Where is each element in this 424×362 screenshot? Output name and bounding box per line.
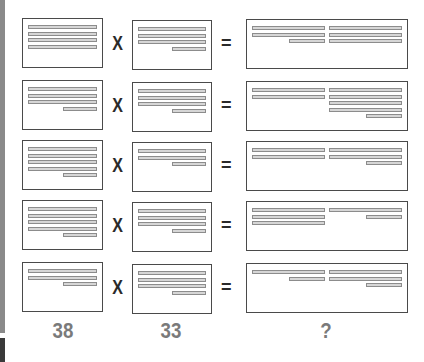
text-line-placeholder <box>252 26 325 30</box>
text-line-placeholder <box>138 278 206 282</box>
text-line-placeholder <box>28 160 97 164</box>
text-line-placeholder <box>329 26 402 30</box>
text-line-placeholder <box>28 45 97 49</box>
text-line-placeholder <box>28 269 97 273</box>
left-edge-block <box>0 338 5 362</box>
text-line-placeholder <box>329 95 402 99</box>
text-line-placeholder <box>28 214 97 218</box>
text-line-placeholder <box>329 88 402 92</box>
text-line-placeholder <box>329 277 402 281</box>
text-line-placeholder <box>252 95 325 99</box>
text-line-placeholder <box>329 208 402 212</box>
multiply-sign: X <box>112 94 123 117</box>
text-line-placeholder <box>329 33 402 37</box>
text-line-placeholder <box>28 220 97 224</box>
text-line-placeholder <box>252 270 325 274</box>
operand-a-box <box>22 18 103 68</box>
text-line-placeholder <box>28 276 97 280</box>
multiply-sign: X <box>112 32 123 55</box>
text-line-placeholder <box>172 162 206 166</box>
equals-sign: = <box>221 95 232 116</box>
left-edge-strip <box>0 0 5 333</box>
result-box <box>246 263 408 313</box>
text-line-placeholder <box>138 216 206 220</box>
text-line-placeholder <box>138 96 206 100</box>
text-line-placeholder <box>28 25 97 29</box>
text-line-placeholder <box>289 39 326 43</box>
text-line-placeholder <box>366 283 403 287</box>
text-line-placeholder <box>172 291 206 295</box>
text-line-placeholder <box>289 277 326 281</box>
text-line-placeholder <box>329 270 402 274</box>
text-line-placeholder <box>172 47 206 51</box>
result-box <box>246 141 408 191</box>
text-line-placeholder <box>329 101 402 105</box>
text-line-placeholder <box>138 271 206 275</box>
equals-sign: = <box>221 33 232 54</box>
label-col3: ? <box>313 318 339 344</box>
text-line-placeholder <box>366 215 403 219</box>
text-line-placeholder <box>329 148 402 152</box>
text-line-placeholder <box>329 39 402 43</box>
text-line-placeholder <box>252 208 325 212</box>
label-col1: 38 <box>50 318 76 344</box>
text-line-placeholder <box>138 40 206 44</box>
result-box <box>246 19 408 69</box>
text-line-placeholder <box>366 161 403 165</box>
text-line-placeholder <box>252 155 325 159</box>
text-line-placeholder <box>28 32 97 36</box>
text-line-placeholder <box>63 107 98 111</box>
text-line-placeholder <box>366 114 403 118</box>
text-line-placeholder <box>63 282 98 286</box>
text-line-placeholder <box>28 154 97 158</box>
text-line-placeholder <box>63 233 98 237</box>
text-line-placeholder <box>252 215 325 219</box>
operand-a-box <box>22 140 103 190</box>
operand-a-box <box>22 80 103 130</box>
text-line-placeholder <box>138 149 206 153</box>
equals-sign: = <box>221 215 232 236</box>
equals-sign: = <box>221 155 232 176</box>
text-line-placeholder <box>138 222 206 226</box>
text-line-placeholder <box>63 173 98 177</box>
label-col2: 33 <box>158 318 184 344</box>
text-line-placeholder <box>138 89 206 93</box>
text-line-placeholder <box>28 87 97 91</box>
text-line-placeholder <box>252 221 325 225</box>
text-line-placeholder <box>138 27 206 31</box>
text-line-placeholder <box>172 109 206 113</box>
operand-b-box <box>132 20 212 70</box>
text-line-placeholder <box>28 94 97 98</box>
text-line-placeholder <box>138 102 206 106</box>
text-line-placeholder <box>172 229 206 233</box>
multiply-sign: X <box>112 154 123 177</box>
operand-a-box <box>22 262 103 312</box>
text-line-placeholder <box>28 207 97 211</box>
text-line-placeholder <box>28 38 97 42</box>
operand-b-box <box>132 82 212 132</box>
text-line-placeholder <box>138 34 206 38</box>
text-line-placeholder <box>28 147 97 151</box>
text-line-placeholder <box>28 167 97 171</box>
equals-sign: = <box>221 277 232 298</box>
text-line-placeholder <box>329 155 402 159</box>
text-line-placeholder <box>252 88 325 92</box>
result-box <box>246 81 408 131</box>
text-line-placeholder <box>329 108 402 112</box>
text-line-placeholder <box>28 100 97 104</box>
text-line-placeholder <box>28 227 97 231</box>
multiply-sign: X <box>112 214 123 237</box>
text-line-placeholder <box>138 209 206 213</box>
text-line-placeholder <box>138 284 206 288</box>
multiply-sign: X <box>112 276 123 299</box>
result-box <box>246 201 408 251</box>
operand-b-box <box>132 142 212 192</box>
operand-b-box <box>132 202 212 252</box>
text-line-placeholder <box>138 156 206 160</box>
operand-a-box <box>22 200 103 250</box>
text-line-placeholder <box>252 33 325 37</box>
operand-b-box <box>132 264 212 314</box>
text-line-placeholder <box>252 148 325 152</box>
